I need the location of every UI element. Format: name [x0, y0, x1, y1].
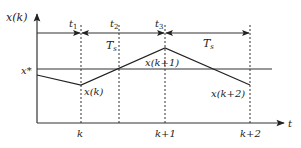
- interval-label-ts-1: Ts: [106, 39, 117, 53]
- marker-t1: t1: [69, 18, 78, 31]
- tick-label-k1: k+1: [155, 128, 176, 139]
- reference-label: x*: [21, 65, 32, 76]
- point-label-xk1: x(k+1): [145, 57, 179, 68]
- y-axis-label: x(k): [6, 11, 27, 24]
- point-label-xk2: x(k+2): [211, 88, 245, 99]
- interval-label-ts-2: Ts: [203, 37, 214, 51]
- marker-t3: t3: [155, 18, 164, 31]
- point-label-xk: x(k): [84, 86, 104, 97]
- x-axis-label: t: [288, 118, 293, 129]
- state-trajectory: [37, 48, 250, 85]
- marker-t2: t2: [110, 18, 119, 31]
- timing-diagram: x(k) t x* t1 t2 t3 Ts Ts x(k) x(k+1) x(k…: [0, 0, 301, 148]
- tick-label-k2: k+2: [240, 128, 261, 139]
- tick-label-k: k: [77, 128, 83, 139]
